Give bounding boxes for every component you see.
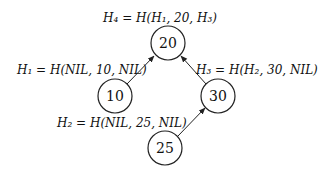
node-10: 10: [98, 79, 132, 113]
label-h1: H₁ = H(NIL, 10, NIL): [16, 63, 147, 77]
node-10-value: 10: [106, 88, 124, 104]
node-25: 25: [148, 131, 182, 165]
node-30: 30: [201, 79, 235, 113]
node-20-value: 20: [159, 35, 177, 51]
label-h4: H₄ = H(H₁, 20, H₃): [102, 11, 217, 25]
node-30-value: 30: [209, 88, 227, 104]
node-20: 20: [151, 26, 185, 60]
node-25-value: 25: [156, 140, 174, 156]
hash-tree-diagram: 20 10 30 25 H₄ = H(H₁, 20, H₃) H₁ = H(NI…: [0, 0, 325, 174]
label-h2: H₂ = H(NIL, 25, NIL): [56, 116, 187, 130]
label-h3: H₃ = H(H₂, 30, NIL): [195, 63, 318, 77]
